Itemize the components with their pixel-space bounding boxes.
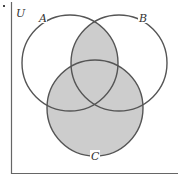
shaded-region [47,15,167,156]
corner-mark [3,5,5,7]
set-b-label: B [138,12,147,25]
set-c-label: C [91,150,100,163]
set-a-label: A [38,12,47,25]
universe-label: U [16,7,26,20]
venn-diagram: U A B C [0,0,178,177]
